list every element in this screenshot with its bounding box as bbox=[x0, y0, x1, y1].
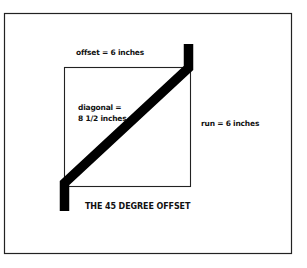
figure-caption: THE 45 DEGREE OFFSET bbox=[85, 203, 190, 211]
diagonal-label-line2: 8 1/2 inches bbox=[78, 115, 126, 123]
run-label: run = 6 inches bbox=[201, 120, 259, 128]
pipe-offset-path bbox=[65, 44, 189, 211]
diagonal-label-line1: diagonal = bbox=[78, 104, 121, 112]
outer-frame bbox=[5, 14, 292, 254]
offset-label: offset = 6 inches bbox=[76, 49, 144, 57]
offset-diagram bbox=[0, 0, 307, 268]
